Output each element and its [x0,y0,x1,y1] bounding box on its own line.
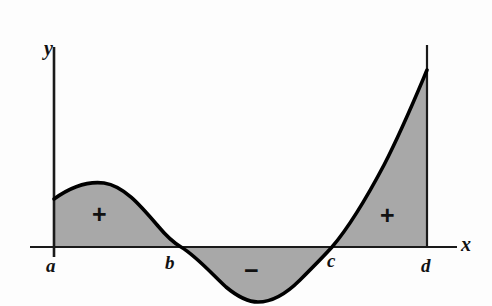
tick-label-c: c [327,251,335,270]
x-axis-label: x [461,234,471,254]
region-sign-c-d: + [380,203,395,228]
tick-label-b: b [165,253,175,272]
tick-label-a: a [46,256,56,275]
shaded-region-a-b [54,183,181,247]
tick-label-d: d [421,256,431,275]
region-sign-a-b: + [92,202,107,227]
figure-container: y x a b c d + − + [0,0,492,306]
y-axis-label: y [44,38,53,58]
region-sign-b-c: − [244,258,259,283]
